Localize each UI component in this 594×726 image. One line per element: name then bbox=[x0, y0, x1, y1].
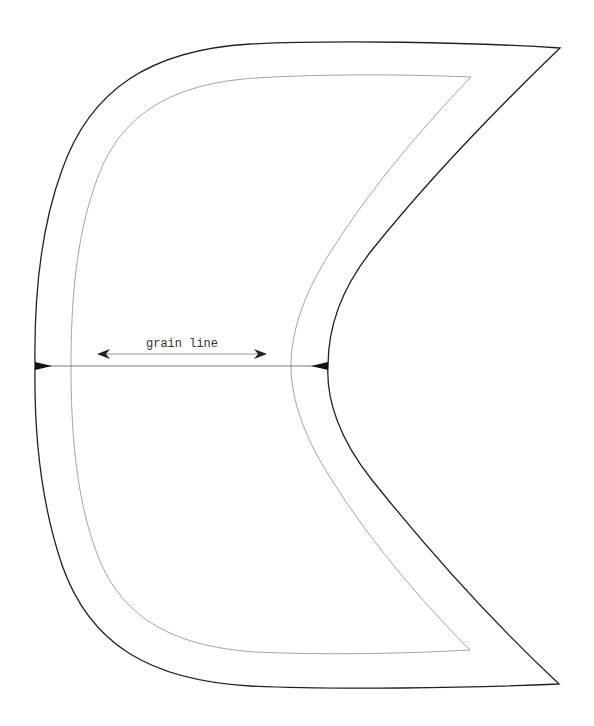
grain-line-label: grain line bbox=[146, 337, 218, 351]
pattern-piece-diagram: grain line bbox=[0, 0, 594, 726]
cut-line bbox=[35, 42, 560, 688]
right-notch-icon bbox=[311, 362, 328, 370]
left-notch-icon bbox=[35, 362, 52, 370]
seam-line bbox=[71, 75, 471, 654]
